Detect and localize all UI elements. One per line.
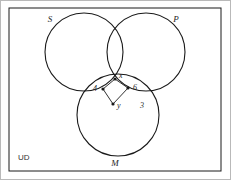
set-label-p: P <box>172 14 179 24</box>
set-label-m: M <box>110 158 119 168</box>
universe-label-ud: UD <box>18 153 30 162</box>
venn-diagram-figure: S P M x 4 6 y 3 UD <box>0 0 231 180</box>
set-circle-s <box>45 13 123 91</box>
segment-4-to-x <box>103 79 115 89</box>
point-label-6: 6 <box>133 83 137 92</box>
point-label-x: x <box>118 71 123 80</box>
point-label-y: y <box>116 101 121 110</box>
set-label-s: S <box>48 14 53 24</box>
point-marker-x <box>113 77 116 80</box>
point-marker-6 <box>126 86 129 89</box>
point-marker-4 <box>101 87 104 90</box>
universal-set-rect <box>9 8 221 171</box>
segment-y-to-4 <box>103 89 113 104</box>
venn-diagram-canvas: S P M x 4 6 y 3 UD <box>0 0 231 180</box>
point-marker-y <box>111 102 114 105</box>
point-label-4: 4 <box>93 84 97 93</box>
segment-x-to-6 <box>115 79 128 88</box>
set-circle-m <box>77 74 159 156</box>
region-label-three: 3 <box>139 101 144 110</box>
